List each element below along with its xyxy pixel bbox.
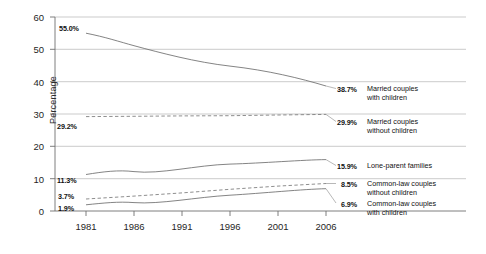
ytick-label-30: 30 (22, 109, 44, 120)
ytick-label-50: 50 (22, 44, 44, 55)
start-value-married-with-children: 55.0% (59, 24, 79, 33)
start-value-commonlaw-without-children: 3.7% (58, 192, 74, 201)
leader-commonlaw-with (326, 189, 336, 203)
end-value-married-with-children: 38.7% (337, 85, 357, 94)
ytick-label-60: 60 (22, 12, 44, 23)
chart-container: Percentage 60 50 40 30 20 10 0 1981 1986… (0, 0, 486, 254)
ytick-label-20: 20 (22, 141, 44, 152)
legend-label-line1: Lone-parent families (367, 162, 432, 171)
xtick-label-1996: 1996 (210, 221, 250, 232)
xtick-label-1991: 1991 (162, 221, 202, 232)
start-value-married-without-children: 29.2% (57, 122, 77, 131)
legend-label-commonlaw-without-children: Common-law couples without children (367, 180, 436, 197)
end-value-married-without-children: 29.9% (337, 118, 357, 127)
start-value-lone-parent-families: 11.3% (57, 176, 76, 185)
end-value-commonlaw-without-children: 8.5% (341, 180, 357, 189)
legend-label-lone-parent-families: Lone-parent families (367, 162, 432, 171)
legend-label-line2: without children (367, 127, 418, 136)
legend-label-married-without-children: Married couples without children (367, 118, 418, 135)
leader-married-without-children (326, 114, 336, 121)
xtick-label-2001: 2001 (258, 221, 298, 232)
xtick-label-2006: 2006 (306, 221, 346, 232)
end-value-commonlaw-with-children: 6.9% (341, 200, 357, 209)
leader-lone-parent (326, 160, 336, 166)
legend-label-line2: with children (367, 209, 436, 218)
legend-leader-lines (326, 86, 336, 203)
ytick-label-0: 0 (22, 206, 44, 217)
series-line-lone-parent-families (86, 160, 326, 175)
end-value-lone-parent-families: 15.9% (337, 162, 357, 171)
start-value-commonlaw-with-children: 1.9% (58, 204, 74, 213)
xtick-label-1981: 1981 (66, 221, 106, 232)
xtick-label-1986: 1986 (114, 221, 154, 232)
series-line-commonlaw-without-children (86, 184, 326, 200)
series-line-married-without-children (86, 114, 326, 116)
legend-label-line2: without children (367, 189, 436, 198)
y-axis-title: Percentage (48, 40, 58, 160)
legend-label-commonlaw-with-children: Common-law couples with children (367, 200, 436, 217)
leader-married-with-children (326, 86, 336, 89)
legend-label-married-with-children: Married couples with children (367, 85, 418, 102)
series-line-married-with-children (86, 33, 326, 86)
ytick-label-10: 10 (22, 174, 44, 185)
legend-label-line2: with children (367, 94, 418, 103)
ytick-label-40: 40 (22, 77, 44, 88)
